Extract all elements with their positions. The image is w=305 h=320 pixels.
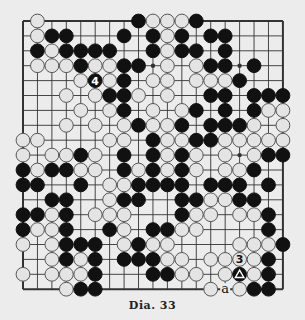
white-stone — [117, 208, 131, 222]
white-stone — [233, 133, 247, 147]
black-stone — [117, 253, 131, 267]
black-stone — [117, 89, 131, 103]
black-stone — [88, 44, 102, 58]
point-label-a: a — [221, 281, 229, 296]
white-stone — [103, 59, 117, 73]
white-stone — [161, 133, 175, 147]
white-stone — [204, 282, 218, 296]
white-stone — [88, 59, 102, 73]
white-stone — [161, 74, 175, 88]
white-stone — [146, 14, 160, 28]
white-stone — [117, 178, 131, 192]
white-stone — [161, 163, 175, 177]
white-stone — [16, 267, 30, 281]
white-stone — [117, 118, 131, 132]
white-stone — [161, 59, 175, 73]
black-stone — [103, 223, 117, 237]
white-stone — [161, 253, 175, 267]
white-stone — [16, 133, 30, 147]
black-stone — [218, 89, 232, 103]
black-stone — [276, 89, 290, 103]
white-stone — [175, 267, 189, 281]
black-stone — [189, 104, 203, 118]
black-stone — [247, 59, 261, 73]
white-stone — [31, 14, 45, 28]
white-stone — [74, 253, 88, 267]
white-stone — [161, 238, 175, 252]
white-stone — [175, 104, 189, 118]
star-point — [237, 63, 241, 67]
go-board-diagram: 43a — [0, 0, 305, 320]
white-stone — [132, 163, 146, 177]
white-stone — [31, 163, 45, 177]
black-stone — [31, 208, 45, 222]
white-stone — [161, 14, 175, 28]
black-stone — [117, 163, 131, 177]
black-stone — [59, 238, 73, 252]
black-stone — [262, 223, 276, 237]
black-stone — [189, 44, 203, 58]
black-stone — [233, 193, 247, 207]
black-stone — [59, 223, 73, 237]
black-stone — [146, 253, 160, 267]
black-stone — [59, 44, 73, 58]
white-stone — [146, 104, 160, 118]
black-stone — [74, 178, 88, 192]
black-stone — [189, 14, 203, 28]
black-stone — [45, 29, 59, 43]
black-stone — [218, 178, 232, 192]
white-stone — [59, 89, 73, 103]
black-stone — [204, 29, 218, 43]
white-stone — [218, 74, 232, 88]
black-stone — [247, 193, 261, 207]
black-stone — [247, 89, 261, 103]
white-stone — [189, 74, 203, 88]
black-stone — [276, 238, 290, 252]
black-stone — [175, 178, 189, 192]
black-stone — [132, 253, 146, 267]
white-stone — [218, 267, 232, 281]
white-stone — [31, 29, 45, 43]
black-stone — [59, 193, 73, 207]
black-stone — [204, 59, 218, 73]
black-stone — [31, 178, 45, 192]
white-stone — [103, 133, 117, 147]
white-stone — [161, 44, 175, 58]
black-stone — [204, 178, 218, 192]
black-stone — [204, 89, 218, 103]
black-stone — [218, 44, 232, 58]
white-stone — [45, 223, 59, 237]
white-stone — [103, 178, 117, 192]
white-stone — [31, 59, 45, 73]
white-stone — [233, 238, 247, 252]
black-stone — [262, 267, 276, 281]
black-stone — [132, 59, 146, 73]
black-stone — [117, 29, 131, 43]
black-stone — [204, 118, 218, 132]
black-stone — [88, 282, 102, 296]
white-stone — [218, 163, 232, 177]
black-stone — [31, 44, 45, 58]
black-stone — [117, 193, 131, 207]
white-stone — [88, 89, 102, 103]
white-stone — [218, 193, 232, 207]
white-stone — [31, 223, 45, 237]
black-stone — [103, 44, 117, 58]
black-stone — [45, 163, 59, 177]
black-stone — [117, 59, 131, 73]
black-stone — [218, 59, 232, 73]
white-stone — [189, 163, 203, 177]
black-stone — [233, 178, 247, 192]
white-stone — [59, 282, 73, 296]
black-stone — [218, 118, 232, 132]
white-stone — [88, 118, 102, 132]
white-stone — [45, 44, 59, 58]
white-stone — [247, 208, 261, 222]
white-stone — [103, 74, 117, 88]
white-stone — [45, 208, 59, 222]
black-stone — [117, 104, 131, 118]
black-stone — [74, 59, 88, 73]
black-stone — [132, 14, 146, 28]
white-stone — [161, 89, 175, 103]
white-stone — [247, 118, 261, 132]
